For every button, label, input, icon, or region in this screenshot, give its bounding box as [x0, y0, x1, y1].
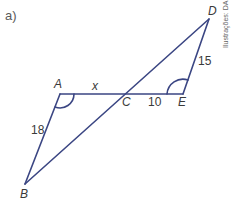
- segment-DE-label: 15: [198, 55, 211, 67]
- image-credit: Ilustrações: DAE: [222, 0, 229, 48]
- point-C-label: C: [122, 96, 131, 108]
- point-B-label: B: [20, 188, 28, 200]
- segment-CE-label: 10: [148, 96, 161, 108]
- geometry-figure: [0, 0, 242, 209]
- segment-AB-label: 18: [31, 124, 44, 136]
- point-A-label: A: [54, 78, 62, 90]
- point-E-label: E: [178, 96, 186, 108]
- segment-AC-label: x: [92, 80, 98, 92]
- point-D-label: D: [208, 5, 217, 17]
